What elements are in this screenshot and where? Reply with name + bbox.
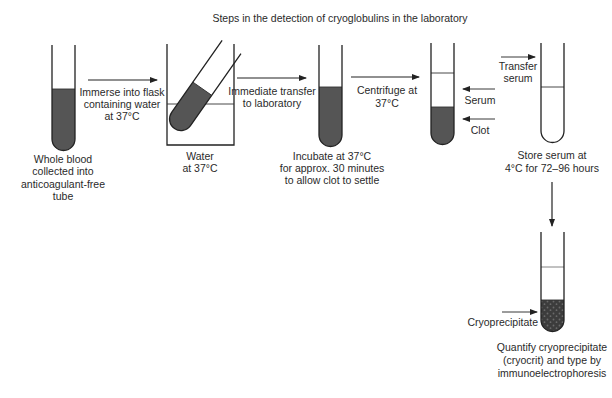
svg-text:at 37°C: at 37°C [104,110,140,122]
svg-text:containing water: containing water [84,98,161,110]
whole-blood-tube [52,45,75,151]
whole-blood-caption: Whole blood collected into anticoagulant… [21,153,105,202]
store-serum-caption: Store serum at 4°C for 72–96 hours [505,149,599,174]
water-flask-caption: Water at 37°C [182,150,218,174]
clot-annotation: Clot [463,119,495,136]
incubate-caption: Incubate at 37°C for approx. 30 minutes … [280,150,384,186]
svg-text:serum: serum [503,72,532,84]
svg-text:for approx. 30 minutes: for approx. 30 minutes [280,162,384,174]
cryoglobulin-detection-diagram: Steps in the detection of cryoglobulins … [0,0,612,398]
svg-text:immunoelectrophoresis: immunoelectrophoresis [498,367,607,379]
svg-text:Immerse into flask: Immerse into flask [79,86,165,98]
svg-text:collected into: collected into [32,165,93,177]
centrifuge-arrow: Centrifuge at 37°C [351,77,419,109]
cryoprecipitate-tube [541,232,564,345]
svg-text:37°C: 37°C [375,97,399,109]
svg-text:Incubate at 37°C: Incubate at 37°C [293,150,372,162]
immerse-arrow: Immerse into flask containing water at 3… [79,80,165,122]
svg-text:Quantify cryoprecipitate: Quantify cryoprecipitate [497,341,607,353]
svg-text:Serum: Serum [465,94,496,106]
svg-text:Transfer: Transfer [499,60,538,72]
svg-text:Water: Water [186,150,214,162]
svg-text:Store serum at: Store serum at [518,149,587,161]
cryoprecipitate-annotation: Cryoprecipitate [467,312,538,328]
immediate-transfer-arrow: Immediate transfer to laboratory [228,78,316,109]
svg-text:Cryoprecipitate: Cryoprecipitate [467,316,538,328]
diagram-title: Steps in the detection of cryoglobulins … [212,12,468,24]
svg-text:4°C for 72–96 hours: 4°C for 72–96 hours [505,162,599,174]
quantify-caption: Quantify cryoprecipitate (cryocrit) and … [497,341,607,379]
svg-text:to allow clot to settle: to allow clot to settle [285,174,380,186]
svg-text:to laboratory: to laboratory [243,97,302,109]
svg-text:Whole blood: Whole blood [34,153,93,165]
svg-text:tube: tube [53,190,74,202]
svg-text:(cryocrit) and type by: (cryocrit) and type by [503,354,602,366]
svg-text:Centrifuge at: Centrifuge at [357,84,417,96]
centrifuged-tube [431,43,454,157]
transfer-serum-arrow: Transfer serum [499,57,538,84]
serum-storage-tube [541,43,564,143]
svg-text:at 37°C: at 37°C [182,162,218,174]
svg-text:Clot: Clot [471,124,490,136]
serum-annotation: Serum [463,89,496,106]
incubate-tube [319,45,342,149]
svg-text:anticoagulant-free: anticoagulant-free [21,178,105,190]
svg-text:Immediate transfer: Immediate transfer [228,85,316,97]
